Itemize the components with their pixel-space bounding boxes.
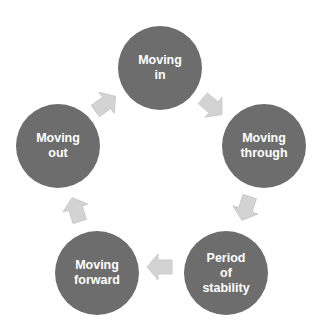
cycle-diagram: Moving in Moving through Period of stabi… — [0, 0, 322, 329]
arrow-down-icon — [230, 193, 262, 225]
node-label: Period of stability — [202, 251, 249, 296]
node-moving-out[interactable]: Moving out — [16, 104, 100, 188]
arrow-left-icon — [147, 254, 172, 280]
node-label: Moving through — [240, 131, 287, 161]
arrow-up-right-icon — [88, 86, 124, 122]
node-moving-in[interactable]: Moving in — [118, 26, 202, 110]
arrow-up-icon — [60, 194, 92, 226]
node-period-of-stability[interactable]: Period of stability — [184, 231, 268, 315]
node-moving-forward[interactable]: Moving forward — [55, 231, 139, 315]
node-label: Moving out — [36, 131, 80, 161]
node-moving-through[interactable]: Moving through — [222, 104, 306, 188]
arrow-right-icon — [194, 88, 230, 124]
node-label: Moving in — [138, 53, 182, 83]
node-label: Moving forward — [74, 258, 120, 288]
